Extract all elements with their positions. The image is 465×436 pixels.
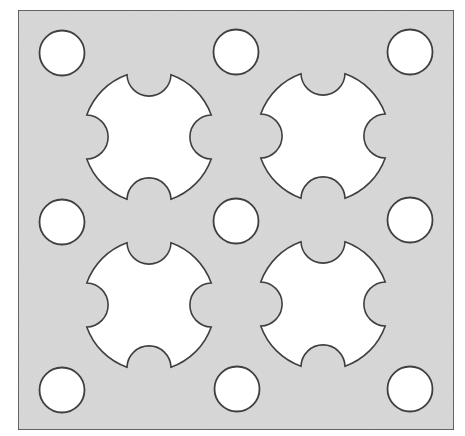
circular-hole — [40, 200, 85, 245]
circular-hole — [40, 368, 85, 413]
perforated-plate-diagram — [0, 0, 465, 436]
circular-hole — [388, 30, 433, 75]
circular-hole — [388, 367, 433, 412]
circular-hole — [388, 198, 433, 243]
circular-hole — [40, 31, 85, 76]
circular-hole — [214, 199, 259, 244]
circular-hole — [215, 367, 260, 412]
circular-hole — [214, 30, 259, 75]
